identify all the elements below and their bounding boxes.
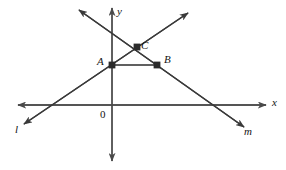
point-a-marker (109, 62, 116, 69)
geometry-figure: x y 0 l m A C B (0, 0, 286, 170)
line-l-label: l (15, 124, 18, 135)
y-axis-label: y (117, 6, 122, 17)
point-a-label: A (97, 56, 104, 67)
point-b-label: B (164, 54, 171, 65)
point-c-label: C (141, 40, 148, 51)
line-m-label: m (244, 126, 252, 137)
point-b-marker (154, 62, 161, 69)
diagram-canvas (0, 0, 286, 170)
origin-label: 0 (100, 109, 106, 120)
point-c-marker (134, 44, 141, 51)
x-axis-label: x (272, 97, 277, 108)
